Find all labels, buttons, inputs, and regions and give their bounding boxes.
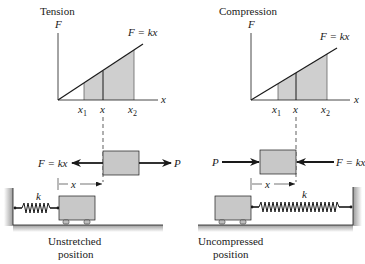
spring-constant-label: k: [36, 190, 42, 202]
displacement-dimension: x: [251, 178, 295, 190]
wheel-icon: [240, 220, 246, 224]
displacement-label: x: [264, 178, 270, 190]
tension-panel: Tension F x F = kx x1 x x2 F = kx P: [4, 5, 181, 260]
ground: [198, 225, 353, 232]
y-axis-label: F: [247, 18, 255, 30]
wheel-icon: [84, 220, 90, 224]
compression-graph: F x F = kx x1 x x2: [247, 18, 359, 118]
work-area-shade: [278, 54, 327, 100]
spring: k: [14, 190, 60, 213]
tension-free-body: F = kx P: [37, 151, 181, 175]
spring-constant-label: k: [302, 188, 308, 200]
ground: [13, 225, 163, 232]
applied-force-label: P: [173, 157, 181, 169]
tension-graph: F x F = kx x1 x x2: [54, 18, 166, 118]
line-label: F = kx: [127, 26, 158, 38]
free-body-block: [103, 151, 139, 175]
caption-line2: position: [213, 248, 249, 260]
tick-x: x: [292, 103, 298, 115]
tick-x1: x1: [77, 103, 87, 118]
spring-force-label: F = kx: [335, 156, 365, 168]
displacement-label: x: [70, 178, 76, 190]
x-axis-label: x: [353, 93, 359, 105]
compression-panel: Compression F x F = kx x1 x x2 P F = kx: [198, 5, 365, 260]
mass-block: [215, 196, 251, 220]
wheel-icon: [63, 220, 69, 224]
line-label: F = kx: [319, 30, 350, 42]
compression-title: Compression: [219, 5, 278, 17]
caption-line1: Unstretched: [48, 235, 102, 247]
tick-x: x: [99, 103, 105, 115]
mass-block: [59, 196, 95, 220]
wall: [4, 188, 13, 226]
applied-force-label: P: [211, 156, 219, 168]
spring-force-label: F = kx: [37, 157, 68, 169]
y-axis-label: F: [54, 18, 62, 30]
displacement-dimension: x: [58, 178, 102, 190]
compression-free-body: P F = kx: [211, 150, 365, 174]
x-axis-label: x: [160, 93, 166, 105]
caption-line2: position: [58, 248, 94, 260]
work-area-shade: [84, 50, 134, 100]
tick-x2: x2: [320, 103, 330, 118]
wheel-icon: [219, 220, 225, 224]
wall: [353, 187, 362, 226]
tick-x2: x2: [127, 103, 137, 118]
spring-work-diagram: Tension F x F = kx x1 x x2 F = kx P: [0, 0, 365, 264]
caption-line1: Uncompressed: [198, 235, 264, 247]
tension-title: Tension: [40, 5, 75, 17]
tick-x1: x1: [271, 103, 281, 118]
spring: k: [251, 188, 353, 212]
free-body-block: [260, 150, 296, 174]
